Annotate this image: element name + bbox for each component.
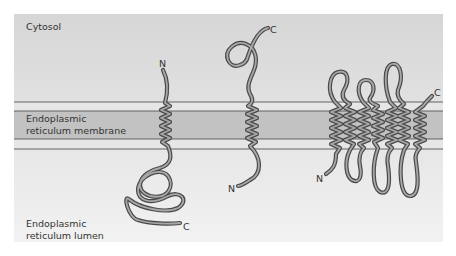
protein-3-multi-pass: C N [316, 64, 441, 196]
c-terminus-label: C [434, 87, 441, 98]
n-terminus-label: N [316, 173, 323, 184]
diagram-panel: N C C N C N Cytosol Endoplasmic reticulu… [14, 14, 443, 242]
c-terminus-label: C [183, 221, 190, 232]
membrane-label-line1: Endoplasmic [26, 113, 86, 125]
n-terminus-label: N [159, 58, 166, 69]
lumen-label-line1: Endoplasmic [26, 218, 86, 230]
membrane-label-line2: reticulum membrane [26, 125, 126, 137]
lumen-label-line2: reticulum lumen [26, 230, 104, 242]
n-terminus-label: N [228, 183, 235, 194]
c-terminus-label: C [270, 24, 277, 35]
cytosol-label: Cytosol [26, 21, 61, 33]
